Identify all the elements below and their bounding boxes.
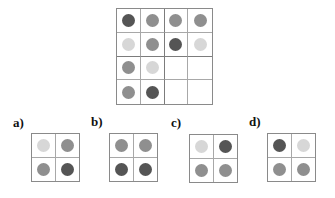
option-cell (56, 134, 80, 158)
medium-circle-icon (122, 61, 135, 74)
option-cell (134, 134, 158, 158)
medium-circle-icon (219, 164, 232, 177)
option-cell (190, 159, 214, 183)
medium-circle-icon (139, 139, 152, 152)
medium-circle-icon (194, 14, 207, 27)
puzzle-main-grid (116, 8, 213, 105)
option-a-label: a) (13, 115, 24, 131)
main-grid-cell (117, 57, 141, 81)
option-cell (214, 135, 238, 159)
main-grid-cell (117, 33, 141, 57)
main-grid-cell (141, 57, 165, 81)
medium-circle-icon (297, 163, 310, 176)
option-cell (292, 158, 316, 182)
dark-circle-icon (122, 14, 135, 27)
light-circle-icon (122, 38, 135, 51)
medium-circle-icon (115, 139, 128, 152)
option-cell (214, 159, 238, 183)
light-circle-icon (146, 61, 159, 74)
option-cell (292, 134, 316, 158)
medium-circle-icon (61, 139, 74, 152)
medium-circle-icon (37, 163, 50, 176)
main-grid-cell (188, 57, 212, 81)
main-grid-cell (188, 9, 212, 33)
medium-circle-icon (122, 86, 135, 99)
option-cell (268, 134, 292, 158)
main-grid-cell (141, 33, 165, 57)
dark-circle-icon (219, 140, 232, 153)
main-grid-cell (117, 9, 141, 33)
option-c-grid[interactable] (189, 134, 238, 183)
dark-circle-icon (146, 86, 159, 99)
option-cell (56, 158, 80, 182)
dark-circle-icon (139, 163, 152, 176)
option-cell (134, 158, 158, 182)
main-grid-cell (141, 80, 165, 104)
main-grid-cell (165, 80, 189, 104)
medium-circle-icon (146, 14, 159, 27)
medium-circle-icon (169, 14, 182, 27)
dark-circle-icon (61, 163, 74, 176)
medium-circle-icon (273, 163, 286, 176)
dark-circle-icon (273, 139, 286, 152)
option-cell (190, 135, 214, 159)
dark-circle-icon (115, 163, 128, 176)
dark-circle-icon (169, 38, 182, 51)
option-b-grid[interactable] (109, 133, 158, 182)
option-cell (268, 158, 292, 182)
option-d-grid[interactable] (267, 133, 316, 182)
light-circle-icon (194, 38, 207, 51)
option-cell (32, 158, 56, 182)
option-d-label: d) (249, 114, 261, 130)
main-grid-cell (141, 9, 165, 33)
option-a-grid[interactable] (31, 133, 80, 182)
option-b-label: b) (91, 114, 103, 130)
main-grid-cell (165, 9, 189, 33)
option-c-label: c) (171, 115, 181, 131)
main-grid-cell (188, 33, 212, 57)
main-grid-cell (117, 80, 141, 104)
medium-circle-icon (146, 38, 159, 51)
main-grid-cell (165, 33, 189, 57)
light-circle-icon (37, 139, 50, 152)
medium-circle-icon (195, 164, 208, 177)
light-circle-icon (297, 139, 310, 152)
option-cell (110, 134, 134, 158)
option-cell (110, 158, 134, 182)
main-grid-cell (165, 57, 189, 81)
option-cell (32, 134, 56, 158)
main-grid-cell (188, 80, 212, 104)
light-circle-icon (195, 140, 208, 153)
